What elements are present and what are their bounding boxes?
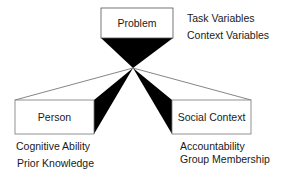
social-context-wedge (133, 68, 172, 134)
problem-label: Problem (101, 17, 173, 29)
person-label: Person (15, 111, 94, 123)
person-attribute-cognitive-ability: Cognitive Ability (16, 140, 90, 152)
problem-attribute-task-variables: Task Variables (187, 12, 255, 24)
problem-attribute-context-variables: Context Variables (187, 29, 269, 41)
person-wedge (94, 68, 133, 134)
person-attribute-prior-knowledge: Prior Knowledge (17, 157, 94, 169)
social-context-label: Social Context (172, 111, 251, 123)
social-context-attribute-group-membership: Group Membership (180, 153, 270, 165)
problem-wedge (101, 38, 173, 68)
social-context-attribute-accountability: Accountability (180, 140, 245, 152)
